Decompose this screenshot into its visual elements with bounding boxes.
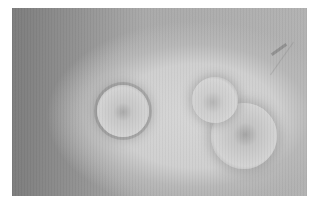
micrograph-photo bbox=[12, 8, 307, 196]
single-cell bbox=[97, 85, 149, 137]
budding-cell-upper bbox=[192, 77, 238, 123]
